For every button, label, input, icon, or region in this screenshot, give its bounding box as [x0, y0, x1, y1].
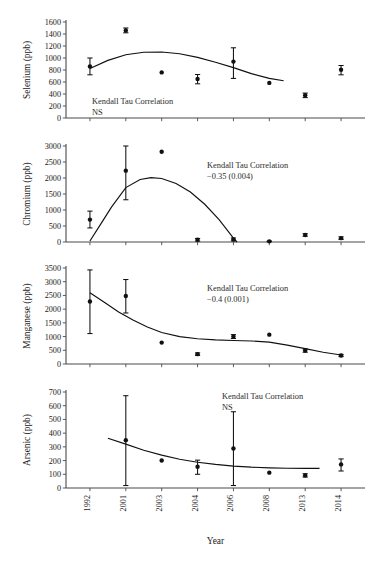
data-point [231, 446, 235, 450]
data-point [159, 70, 163, 74]
y-tick-label: 1400 [45, 30, 61, 39]
data-point [159, 150, 163, 154]
figure-canvas: 02004006008001000120014001600Selenium (p… [0, 0, 373, 562]
annotation-text: Kendall Tau Correlation [222, 392, 304, 401]
x-tick-label: 2013 [298, 495, 307, 511]
y-tick-label: 1000 [45, 54, 61, 63]
trend-line-selenium [90, 52, 284, 81]
y-tick-label: 300 [49, 443, 61, 452]
data-point [88, 299, 92, 303]
y-tick-label: 400 [49, 90, 61, 99]
y-tick-label: 2500 [45, 291, 61, 300]
y-tick-label: 1200 [45, 42, 61, 51]
x-tick-label: 2003 [155, 495, 164, 511]
annotation-text: Kendall Tau Correlation [207, 284, 289, 293]
y-tick-label: 3000 [45, 142, 61, 151]
data-point [124, 168, 128, 172]
y-axis-label-manganese: Manganese (ppb) [22, 283, 33, 348]
annotation-text: −0.4 (0.001) [207, 295, 249, 304]
data-point [88, 64, 92, 68]
data-point [303, 473, 307, 477]
x-tick-label: 2006 [226, 495, 235, 511]
data-point [267, 332, 271, 336]
y-tick-label: 600 [49, 402, 61, 411]
y-tick-label: 500 [49, 346, 61, 355]
data-point [267, 470, 271, 474]
data-point [267, 239, 271, 243]
y-axis-label-selenium: Selenium (ppb) [22, 41, 33, 99]
data-point [195, 352, 199, 356]
scientific-figure: 02004006008001000120014001600Selenium (p… [0, 0, 373, 562]
annotation-text: NS [92, 108, 103, 117]
data-point [303, 93, 307, 97]
y-tick-label: 400 [49, 429, 61, 438]
data-point [195, 465, 199, 469]
annotation-text: Kendall Tau Correlation [207, 161, 289, 170]
data-point [303, 233, 307, 237]
x-tick-label: 2001 [119, 495, 128, 511]
panel-arsenic: 0100200300400500600700Arsenic (ppb)Kenda… [22, 388, 365, 546]
y-tick-label: 200 [49, 102, 61, 111]
panel-selenium: 02004006008001000120014001600Selenium (p… [22, 18, 365, 123]
data-point [159, 458, 163, 462]
y-tick-label: 2500 [45, 158, 61, 167]
x-tick-label: 2014 [334, 495, 343, 511]
y-tick-label: 0 [57, 484, 61, 493]
trend-line-chromium [90, 178, 237, 242]
y-tick-label: 1600 [45, 18, 61, 27]
x-tick-label: 2004 [191, 495, 200, 511]
panel-chromium: 050010001500200025003000Chromium (ppb)Ke… [22, 142, 365, 247]
data-point [124, 28, 128, 32]
data-point [303, 348, 307, 352]
data-point [195, 77, 199, 81]
y-tick-label: 800 [49, 66, 61, 75]
y-tick-label: 700 [49, 388, 61, 397]
y-axis-label-chromium: Chromium (ppb) [22, 162, 33, 225]
data-point [88, 217, 92, 221]
y-tick-label: 1500 [45, 190, 61, 199]
y-tick-label: 2000 [45, 305, 61, 314]
y-tick-label: 200 [49, 457, 61, 466]
y-tick-label: 100 [49, 470, 61, 479]
y-axis-label-arsenic: Arsenic (ppb) [22, 414, 33, 466]
y-tick-label: 0 [57, 360, 61, 369]
data-point [124, 294, 128, 298]
y-tick-label: 3500 [45, 264, 61, 273]
data-point [195, 238, 199, 242]
annotation-text: NS [222, 403, 233, 412]
x-tick-label: 2008 [262, 495, 271, 511]
y-tick-label: 1000 [45, 333, 61, 342]
y-tick-label: 2000 [45, 174, 61, 183]
annotation-text: −0.35 (0.004) [207, 172, 253, 181]
data-point [339, 236, 343, 240]
error-bar [123, 146, 128, 200]
y-tick-label: 600 [49, 78, 61, 87]
data-point [339, 68, 343, 72]
x-tick-label: 1992 [83, 495, 92, 511]
y-tick-label: 3000 [45, 278, 61, 287]
y-tick-label: 0 [57, 114, 61, 123]
y-tick-label: 0 [57, 238, 61, 247]
annotation-text: Kendall Tau Correlation [92, 97, 174, 106]
data-point [339, 353, 343, 357]
panel-manganese: 0500100015002000250030003500Manganese (p… [22, 264, 365, 369]
data-point [231, 59, 235, 63]
x-axis-label: Year [207, 536, 225, 546]
data-point [231, 237, 235, 241]
trend-line-arsenic [108, 438, 320, 468]
data-point [159, 340, 163, 344]
data-point [267, 81, 271, 85]
y-tick-label: 500 [49, 415, 61, 424]
y-tick-label: 1000 [45, 206, 61, 215]
data-point [124, 438, 128, 442]
data-point [231, 334, 235, 338]
y-tick-label: 500 [49, 222, 61, 231]
y-tick-label: 1500 [45, 319, 61, 328]
data-point [339, 462, 343, 466]
